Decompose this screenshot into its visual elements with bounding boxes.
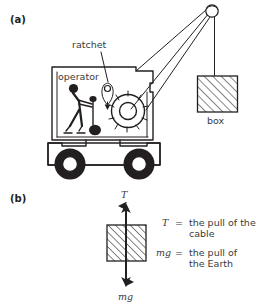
panel-b-label: (b) [10,193,26,204]
legend-mg-equals: = [175,247,183,258]
legend-t-line1: the pull of the [189,217,256,228]
legend-mg-line1: the pull of [189,247,238,258]
legend-t-line2: cable [189,228,215,239]
panel-a: (a) box [10,5,238,180]
crane-wheels [55,149,155,180]
box-label: box [207,115,225,126]
legend-t-equals: = [175,217,183,228]
legend-mg-line2: the Earth [189,258,233,269]
ratchet-label: ratchet [72,39,107,50]
winch-drum [109,91,148,132]
panel-b: (b) T mg T = the pull of the [10,189,256,302]
physics-figure: (a) box [0,0,258,305]
operator-figure [64,84,92,133]
legend-t-symbol: T [162,217,169,228]
figure-canvas: (a) box [0,0,258,305]
legend-mg-symbol: mg [156,247,171,258]
boom-pulley [206,5,218,17]
tension-symbol-label: T [121,189,128,200]
force-legend: T = the pull of the cable mg = the pull … [156,217,256,269]
operator-label: operator [58,71,99,82]
control-lever [89,96,101,135]
hanging-box [198,76,238,112]
weight-symbol-label: mg [118,291,133,302]
panel-a-label: (a) [10,14,26,25]
